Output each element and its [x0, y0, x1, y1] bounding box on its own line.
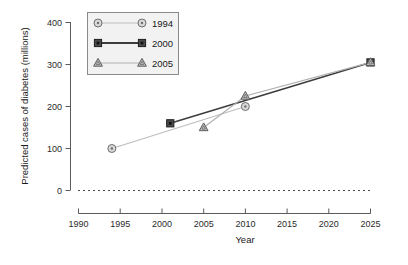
- x-axis: 1990 1995 2000 2005 2010 2015 2020 2025 …: [68, 209, 380, 246]
- x-tick-label-2005: 2005: [194, 219, 214, 229]
- series-2005: [204, 62, 371, 127]
- y-axis: 400 300 200 100 0 Predicted cases of dia…: [19, 18, 71, 196]
- diabetes-prediction-line-chart: 400 300 200 100 0 Predicted cases of dia…: [0, 0, 408, 265]
- data-point-1994-1994: [108, 145, 116, 153]
- x-axis-title: Year: [235, 234, 254, 245]
- x-tick-label-1990: 1990: [68, 219, 88, 229]
- series-1994: [112, 107, 245, 149]
- y-tick-label-400: 400: [47, 18, 62, 28]
- x-tick-label-2025: 2025: [360, 219, 380, 229]
- x-tick-label-2015: 2015: [277, 219, 297, 229]
- y-tick-label-300: 300: [47, 60, 62, 70]
- x-tick-label-2010: 2010: [235, 219, 255, 229]
- chart-figure: 400 300 200 100 0 Predicted cases of dia…: [0, 0, 408, 265]
- x-tick-label-2000: 2000: [152, 219, 172, 229]
- series-2000: [170, 62, 370, 123]
- data-point-1994-2010: [241, 103, 249, 111]
- x-tick-label-2020: 2020: [319, 219, 339, 229]
- legend-label-2005: 2005: [152, 58, 173, 69]
- legend: 1994 2000 2005: [88, 13, 179, 75]
- data-point-2000-2001: [167, 120, 174, 127]
- y-tick-label-0: 0: [57, 186, 62, 196]
- y-tick-label-100: 100: [47, 144, 62, 154]
- y-tick-label-200: 200: [47, 102, 62, 112]
- data-point-2005-2005: [199, 123, 208, 131]
- legend-label-1994: 1994: [152, 18, 173, 29]
- legend-label-2000: 2000: [152, 38, 173, 49]
- x-tick-label-1995: 1995: [110, 219, 130, 229]
- y-axis-title: Predicted cases of diabetes (millions): [19, 27, 30, 184]
